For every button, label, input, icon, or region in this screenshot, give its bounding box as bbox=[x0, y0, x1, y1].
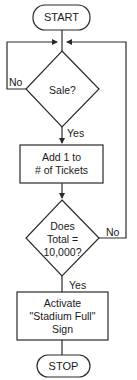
stop-label: STOP bbox=[37, 360, 90, 372]
decision-sale-no-label: No bbox=[9, 76, 22, 88]
decision-total-line3: 10,000? bbox=[26, 246, 99, 258]
decision-sale-yes-label: Yes bbox=[67, 127, 84, 139]
process-add-line2: # of Tickets bbox=[20, 164, 103, 176]
decision-total-line2: Total = bbox=[26, 233, 99, 245]
decision-total-line1: Does bbox=[26, 220, 99, 232]
decision-sale-text: Sale? bbox=[26, 84, 99, 96]
process-stadium-line3: Sign bbox=[17, 323, 108, 335]
decision-total-no-label: No bbox=[106, 226, 119, 238]
process-stadium-line1: Activate bbox=[17, 297, 108, 309]
decision-total-yes-label: Yes bbox=[69, 279, 86, 291]
process-add-line1: Add 1 to bbox=[20, 151, 103, 163]
start-label: START bbox=[33, 11, 90, 23]
process-stadium-line2: "Stadium Full" bbox=[17, 310, 108, 322]
